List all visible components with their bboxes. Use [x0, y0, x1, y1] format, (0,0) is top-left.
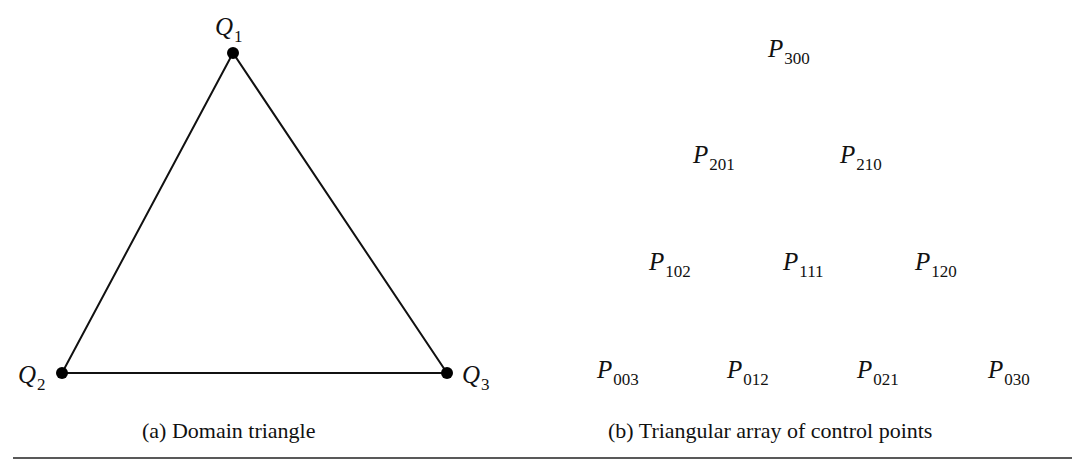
- control-point-p210: P210: [840, 142, 882, 167]
- control-point-p021: P021: [857, 357, 899, 382]
- control-point-p201: P201: [693, 142, 735, 167]
- control-point-p111: P111: [783, 249, 824, 274]
- control-point-p012: P012: [727, 357, 769, 382]
- figure-graphics: [0, 0, 1072, 467]
- vertex-dot-q1: [227, 47, 239, 59]
- domain-triangle: [62, 53, 447, 373]
- vertex-label-q3: Q3: [462, 362, 490, 387]
- caption-b: (b) Triangular array of control points: [608, 420, 932, 442]
- vertex-dot-q3: [441, 367, 453, 379]
- vertex-dot-q2: [56, 367, 68, 379]
- control-point-p300: P300: [768, 36, 810, 61]
- control-point-p102: P102: [649, 249, 691, 274]
- vertex-label-q1: Q1: [215, 14, 243, 39]
- vertex-label-q2: Q2: [18, 362, 46, 387]
- control-point-p030: P030: [988, 357, 1030, 382]
- caption-a: (a) Domain triangle: [142, 420, 316, 442]
- control-point-p120: P120: [915, 249, 957, 274]
- control-point-p003: P003: [597, 357, 639, 382]
